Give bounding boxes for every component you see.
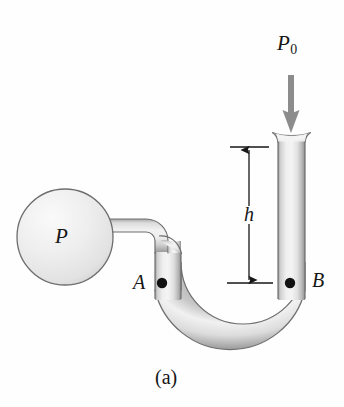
point-b-marker: [285, 278, 295, 288]
atmospheric-pressure-subscript: 0: [290, 42, 297, 57]
bulb-pressure-label: P: [55, 226, 68, 247]
atmospheric-pressure-arrow: [283, 75, 300, 133]
atmospheric-pressure-label: P0: [277, 33, 297, 57]
left-vertical-arm: [155, 252, 181, 300]
atmospheric-pressure-symbol: P: [277, 31, 290, 55]
point-a-label: A: [133, 272, 145, 292]
tube-open-mouth: [273, 133, 311, 142]
figure-caption: (a): [155, 366, 177, 389]
manometer-figure: P A B h P0 (a): [0, 0, 344, 407]
point-a-marker: [157, 278, 167, 288]
height-label: h: [244, 204, 254, 224]
manometer-diagram: [0, 0, 344, 407]
point-b-label: B: [312, 270, 324, 290]
right-vertical-arm: [278, 139, 305, 300]
